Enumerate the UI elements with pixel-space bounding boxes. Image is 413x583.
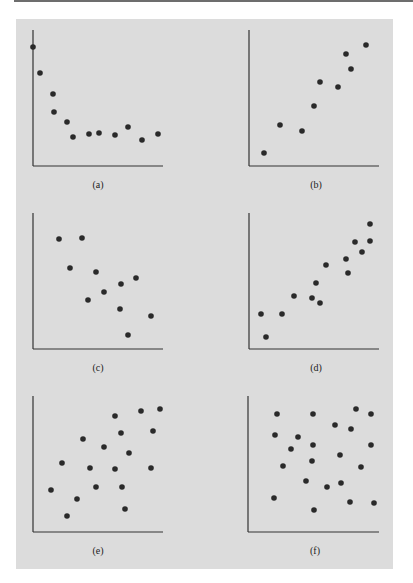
panel-label: (e)	[92, 545, 103, 557]
data-point	[371, 500, 377, 506]
data-point	[345, 270, 351, 276]
data-point	[303, 478, 309, 484]
data-point	[50, 91, 56, 97]
data-point	[288, 446, 294, 452]
scatter-plot-a: (a)	[30, 30, 163, 191]
data-point	[272, 432, 278, 438]
data-point	[48, 487, 54, 493]
data-point	[148, 313, 154, 319]
data-point	[324, 484, 330, 490]
data-point	[263, 334, 269, 340]
data-point	[122, 506, 128, 512]
data-point	[368, 411, 374, 417]
data-point	[86, 131, 92, 137]
data-point	[101, 444, 107, 450]
data-point	[258, 311, 264, 317]
data-point	[359, 249, 365, 255]
data-point	[148, 465, 154, 471]
data-point	[299, 128, 305, 134]
data-point	[311, 103, 317, 109]
data-point	[93, 269, 99, 275]
scatter-plot-b: (b)	[249, 30, 379, 191]
data-point	[112, 413, 118, 419]
data-point	[155, 131, 161, 137]
data-point	[317, 300, 323, 306]
data-point	[309, 295, 315, 301]
data-point	[59, 460, 65, 466]
data-point	[291, 293, 297, 299]
data-point	[332, 422, 338, 428]
data-point	[133, 275, 139, 281]
data-point	[126, 450, 132, 456]
data-point	[274, 411, 280, 417]
panel-label: (f)	[310, 545, 320, 557]
data-point	[358, 464, 364, 470]
panel-label: (b)	[310, 179, 322, 191]
data-point	[125, 332, 131, 338]
data-point	[261, 150, 267, 156]
data-point	[64, 513, 70, 519]
data-point	[30, 44, 36, 50]
data-point	[117, 306, 123, 312]
data-point	[348, 426, 354, 432]
data-point	[96, 130, 102, 136]
data-point	[277, 122, 283, 128]
data-point	[335, 84, 341, 90]
data-point	[323, 262, 329, 268]
scatter-plots-figure: (a)(b)(c)(d)(e)(f)	[0, 0, 413, 583]
scatter-plot-f: (f)	[248, 396, 379, 557]
data-point	[85, 297, 91, 303]
data-point	[311, 507, 317, 513]
data-point	[64, 119, 70, 125]
data-point	[343, 51, 349, 57]
data-point	[271, 495, 277, 501]
data-point	[118, 430, 124, 436]
data-point	[343, 256, 349, 262]
data-point	[150, 428, 156, 434]
data-point	[67, 265, 73, 271]
data-point	[338, 480, 344, 486]
data-point	[363, 42, 369, 48]
panel-label: (a)	[92, 179, 103, 191]
data-point	[367, 221, 373, 227]
data-point	[74, 496, 80, 502]
data-point	[157, 406, 163, 412]
data-point	[51, 109, 57, 115]
data-point	[93, 484, 99, 490]
data-point	[56, 236, 62, 242]
data-point	[295, 434, 301, 440]
data-point	[112, 132, 118, 138]
data-point	[279, 311, 285, 317]
data-point	[101, 289, 107, 295]
scatter-plot-c: (c)	[33, 213, 163, 374]
data-point	[80, 436, 86, 442]
data-point	[310, 442, 316, 448]
data-point	[139, 137, 145, 143]
data-point	[353, 406, 359, 412]
data-point	[37, 70, 43, 76]
data-point	[118, 281, 124, 287]
data-point	[313, 280, 319, 286]
data-point	[348, 66, 354, 72]
data-point	[309, 458, 315, 464]
data-point	[125, 124, 131, 130]
data-point	[368, 442, 374, 448]
data-point	[310, 411, 316, 417]
data-point	[119, 484, 125, 490]
panel-label: (c)	[92, 362, 103, 374]
data-point	[347, 499, 353, 505]
data-point	[352, 239, 358, 245]
data-point	[79, 235, 85, 241]
data-point	[70, 134, 76, 140]
data-point	[138, 408, 144, 414]
data-point	[367, 238, 373, 244]
panel-label: (d)	[310, 362, 322, 374]
scatter-plot-e: (e)	[33, 396, 163, 557]
data-point	[337, 452, 343, 458]
data-point	[317, 79, 323, 85]
data-point	[112, 466, 118, 472]
data-point	[87, 465, 93, 471]
scatter-plot-d: (d)	[249, 213, 379, 374]
data-point	[280, 463, 286, 469]
